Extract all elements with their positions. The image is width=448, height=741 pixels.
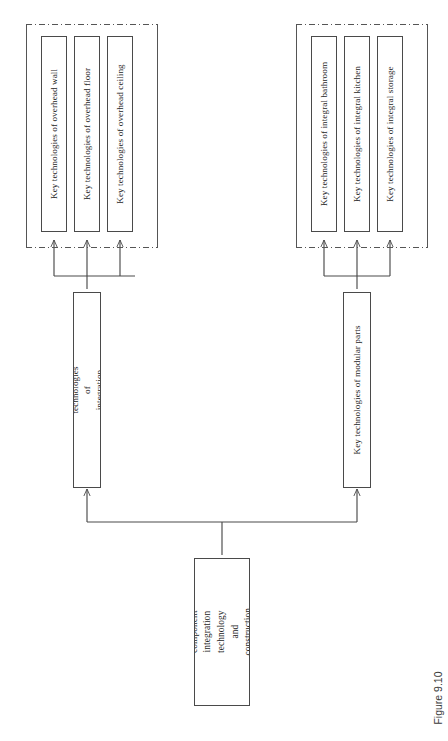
node-label: Key technologies of integral kitchen	[351, 66, 363, 202]
node-label: Key technologies of overhead floor	[81, 68, 93, 200]
node-overhead-wall[interactable]: Key technologies of overhead wall	[41, 36, 67, 232]
node-infill-root[interactable]: INFILL component integration technology …	[194, 558, 250, 706]
node-label: Key technologies of integral bathroom	[318, 62, 330, 206]
node-integral-storage[interactable]: Key technologies of integral storage	[377, 36, 403, 232]
figure-caption-text: Figure 9.10	[432, 671, 444, 724]
node-overhead-floor[interactable]: Key technologies of overhead floor	[74, 36, 100, 232]
diagram-canvas: Key technologies of overhead wall Key te…	[0, 0, 448, 741]
node-label: Key technologies of overhead wall	[48, 69, 60, 199]
node-label: Key technologies of overhead ceiling	[114, 64, 126, 203]
node-label: Key technologies of integral storage	[384, 66, 396, 201]
node-integral-bathroom[interactable]: Key technologies of integral bathroom	[311, 36, 337, 232]
node-label: Key technologies of integration componen…	[73, 366, 101, 413]
node-modular-parts[interactable]: Key technologies of modular parts	[343, 292, 371, 488]
node-overhead-ceiling[interactable]: Key technologies of overhead ceiling	[107, 36, 133, 232]
node-integral-kitchen[interactable]: Key technologies of integral kitchen	[344, 36, 370, 232]
node-label: INFILL component integration technology …	[194, 605, 250, 659]
figure-caption: Figure 9.10	[430, 663, 446, 733]
node-label: Key technologies of modular parts	[351, 325, 363, 454]
node-integration-components[interactable]: Key technologies of integration componen…	[73, 292, 101, 488]
